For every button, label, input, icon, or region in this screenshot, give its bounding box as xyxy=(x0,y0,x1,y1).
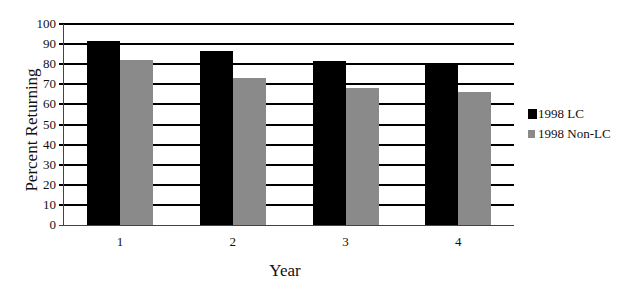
bar-1998-lc-year-1 xyxy=(87,41,120,225)
bar-1998-lc-year-2 xyxy=(200,51,233,225)
bar-1998-non-lc-year-2 xyxy=(233,78,266,225)
bar-1998-lc-year-4 xyxy=(425,63,458,225)
y-tick-label: 50 xyxy=(0,118,56,131)
legend-swatch-icon xyxy=(528,109,537,119)
legend-swatch-icon xyxy=(528,130,535,138)
x-axis-line xyxy=(59,225,514,226)
bar-1998-non-lc-year-4 xyxy=(458,92,491,225)
y-tick-label: 0 xyxy=(0,218,56,231)
y-tick-label: 100 xyxy=(0,17,56,30)
y-tick-label: 70 xyxy=(0,77,56,90)
legend-label: 1998 LC xyxy=(538,106,584,122)
x-axis-label: Year xyxy=(240,261,330,281)
y-tick-label: 80 xyxy=(0,57,56,70)
x-tick-label: 4 xyxy=(443,234,473,250)
gridline xyxy=(59,43,514,45)
y-tick-label: 40 xyxy=(0,138,56,151)
legend-label: 1998 Non-LC xyxy=(538,126,611,142)
y-tick-label: 20 xyxy=(0,178,56,191)
y-tick-label: 60 xyxy=(0,97,56,110)
x-tick-label: 1 xyxy=(105,234,135,250)
legend-item: 1998 LC xyxy=(528,106,584,122)
y-tick-label: 10 xyxy=(0,198,56,211)
gridline xyxy=(59,23,514,25)
bar-1998-non-lc-year-3 xyxy=(346,88,379,225)
y-tick-label: 90 xyxy=(0,37,56,50)
y-axis-line xyxy=(63,24,64,225)
bar-1998-lc-year-3 xyxy=(313,61,346,225)
y-tick-label: 30 xyxy=(0,158,56,171)
x-tick-label: 3 xyxy=(331,234,361,250)
bar-1998-non-lc-year-1 xyxy=(120,60,153,225)
x-tick-label: 2 xyxy=(218,234,248,250)
bar-chart: Percent Returning Year 01020304050607080… xyxy=(0,0,622,291)
legend-item: 1998 Non-LC xyxy=(528,126,611,142)
